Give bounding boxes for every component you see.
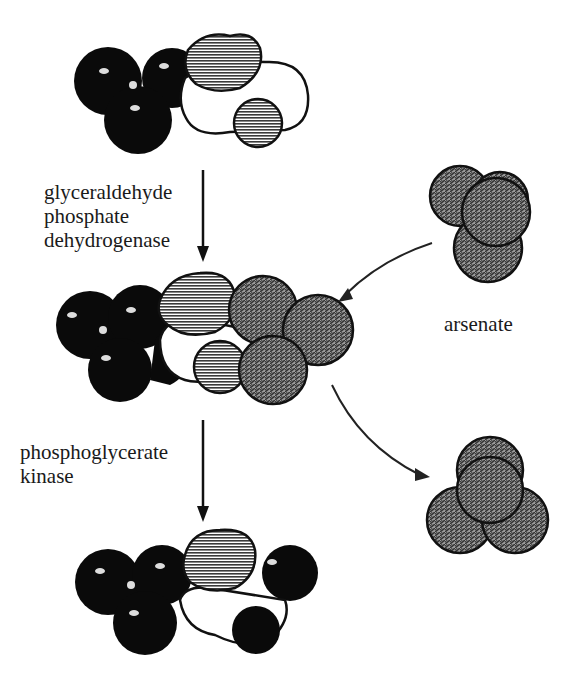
molecule-product-bottom (75, 530, 318, 655)
arsenate-out-arrow (332, 385, 430, 481)
reaction-arrow-1 (197, 170, 209, 262)
glycolysis-arsenate-diagram (0, 0, 578, 685)
arsenate-label: arsenate (444, 312, 513, 336)
molecule-arsenate-in (430, 166, 530, 282)
molecule-intermediate-middle (56, 273, 353, 404)
enzyme-1-line-3: dehydrogenase (44, 228, 170, 252)
reaction-arrow-2 (197, 420, 209, 522)
enzyme-2-line-2: kinase (20, 464, 74, 488)
enzyme-1-line-1: glyceraldehyde (44, 180, 172, 204)
enzyme-label-2: phosphoglyceratekinase (20, 440, 168, 488)
molecule-substrate-top (74, 35, 310, 155)
enzyme-2-line-1: phosphoglycerate (20, 440, 168, 464)
molecule-arsenate-out (427, 437, 548, 553)
arsenate-in-arrow (338, 243, 432, 302)
enzyme-label-1: glyceraldehydephosphatedehydrogenase (44, 180, 172, 252)
enzyme-1-line-2: phosphate (44, 204, 129, 228)
